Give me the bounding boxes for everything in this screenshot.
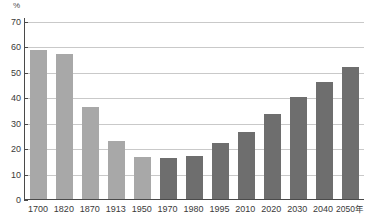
bar: [108, 141, 125, 199]
y-axis-tick-label: 0: [16, 196, 21, 205]
x-axis-tick-label: 2020: [258, 204, 284, 215]
y-axis-tick-label: 70: [11, 18, 21, 27]
bar-slot: [77, 21, 103, 199]
x-axis-tick-label: 1820: [51, 204, 77, 215]
bar-slot: [129, 21, 155, 199]
x-axis-tick-label: 1995: [206, 204, 232, 215]
y-axis-tick-label: 50: [11, 68, 21, 77]
bar: [264, 114, 281, 199]
bar: [316, 82, 333, 199]
x-axis-tick-label: 1700: [25, 204, 51, 215]
bar: [342, 67, 359, 199]
bar-slot: [155, 21, 181, 199]
bar-slot: [25, 21, 51, 199]
x-axis-tick-label: 2010: [232, 204, 258, 215]
x-axis-tick-label: 1950: [129, 204, 155, 215]
y-axis-unit-label: %: [13, 1, 20, 10]
bar-slot: [260, 21, 286, 199]
y-axis-tick-label: 10: [11, 170, 21, 179]
bar: [212, 143, 229, 199]
x-axis-tick-label: 1980: [181, 204, 207, 215]
bar-series: [25, 21, 364, 199]
bar: [82, 107, 99, 199]
x-axis-tick-label: 1913: [103, 204, 129, 215]
bar-slot: [208, 21, 234, 199]
bar-slot: [103, 21, 129, 199]
x-axis-tick-label: 1870: [77, 204, 103, 215]
bar: [30, 50, 47, 199]
bar: [134, 157, 151, 199]
bar: [290, 97, 307, 199]
y-axis-tick-label: 20: [11, 145, 21, 154]
bar: [160, 158, 177, 199]
bar-slot: [312, 21, 338, 199]
bar: [238, 132, 255, 199]
bar-slot: [51, 21, 77, 199]
y-axis-tick: 0: [24, 200, 28, 201]
y-axis-tick-label: 60: [11, 43, 21, 52]
x-axis-tick-label: 2030: [284, 204, 310, 215]
bar-slot: [338, 21, 364, 199]
bar: [186, 156, 203, 199]
bar-slot: [181, 21, 207, 199]
y-axis-tick-label: 40: [11, 94, 21, 103]
bar-chart: % 010203040506070 1700182018701913195019…: [0, 0, 368, 224]
x-axis-tick-label: 1970: [155, 204, 181, 215]
x-axis-line: [24, 199, 364, 200]
x-axis-labels: 1700182018701913195019701980199520102020…: [25, 204, 364, 215]
x-axis-tick-label: 2050年: [336, 204, 364, 215]
bar-slot: [286, 21, 312, 199]
plot-area: 010203040506070: [24, 22, 364, 200]
bar: [56, 54, 73, 199]
y-axis-tick-label: 30: [11, 119, 21, 128]
bar-slot: [234, 21, 260, 199]
x-axis-tick-label: 2040: [310, 204, 336, 215]
